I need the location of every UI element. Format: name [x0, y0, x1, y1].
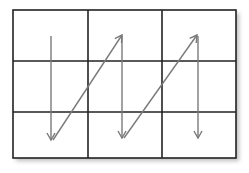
- scan-order-diagram: [0, 0, 249, 173]
- grid-frame: [13, 10, 236, 158]
